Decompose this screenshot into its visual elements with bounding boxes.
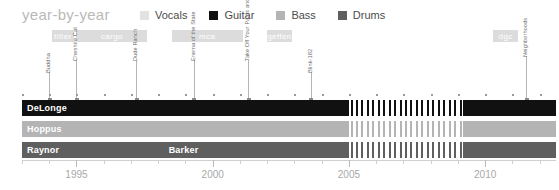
timeline-segment[interactable]: Raynor — [22, 142, 164, 158]
legend-item-vocals[interactable]: Vocals — [140, 9, 187, 21]
axis-minor-tick — [540, 160, 541, 164]
minor-tick — [403, 94, 405, 96]
album-title: Blink-182 — [307, 49, 313, 73]
album-title: Neighborhoods — [522, 18, 528, 57]
timeline-row-drummers: RaynorBarker — [0, 142, 559, 158]
chart-header: year-by-year VocalsGuitarBassDrums — [0, 0, 559, 28]
record-label-band-dgc[interactable]: dgc — [493, 30, 518, 42]
record-label-text: filter — [54, 32, 72, 41]
hatch-stripe — [394, 121, 396, 137]
timeline-segment[interactable] — [463, 100, 556, 116]
hatch-stripe — [361, 100, 363, 116]
hatch-stripe — [356, 100, 358, 116]
minor-tick — [213, 94, 215, 96]
hatch-stripe — [372, 142, 374, 158]
album-title: Cheshire Cat — [72, 27, 78, 61]
record-label-band-filter[interactable]: filter — [52, 30, 74, 42]
axis-minor-tick — [458, 160, 459, 164]
hatch-stripe — [438, 100, 440, 116]
hatch-stripe — [356, 121, 358, 137]
hatch-stripe — [454, 100, 456, 116]
minor-tick — [240, 94, 242, 96]
timeline-segment[interactable]: Hoppus — [22, 121, 349, 137]
timeline-segment[interactable] — [463, 142, 556, 158]
legend-label: Drums — [353, 9, 385, 21]
bass-swatch-icon — [276, 11, 285, 20]
hatch-stripe — [400, 121, 402, 137]
timeline-segment[interactable]: DeLonge — [22, 100, 349, 116]
hatch-stripe — [383, 100, 385, 116]
hatch-stripe — [443, 121, 445, 137]
timeline-segment[interactable] — [463, 121, 556, 137]
minor-tick — [49, 94, 51, 96]
axis-tick-label: 1995 — [65, 169, 87, 180]
hatch-stripe — [443, 100, 445, 116]
timeline-segment[interactable]: Barker — [164, 142, 349, 158]
hatch-stripe — [421, 100, 423, 116]
hatch-stripe — [389, 121, 391, 137]
timeline-row-hoppus: Hoppus — [0, 121, 559, 137]
hatch-stripe — [361, 121, 363, 137]
record-label-band-mca[interactable]: mca — [172, 30, 243, 42]
drums-swatch-icon — [338, 11, 347, 20]
record-label-band-geffen[interactable]: geffen — [267, 30, 292, 42]
hatch-stripe — [449, 100, 451, 116]
hatch-stripe — [449, 121, 451, 137]
minor-tick — [267, 94, 269, 96]
axis-minor-tick — [22, 160, 23, 164]
minor-tick — [158, 94, 160, 96]
member-name: Hoppus — [27, 124, 62, 134]
hiatus-hatch-region — [349, 121, 463, 137]
hatch-stripe — [454, 121, 456, 137]
hatch-stripe — [460, 121, 462, 137]
hatch-stripe — [394, 100, 396, 116]
hatch-stripe — [416, 121, 418, 137]
axis-tick-label: 2010 — [474, 169, 496, 180]
hatch-stripe — [438, 142, 440, 158]
axis-tick-label: 2000 — [202, 169, 224, 180]
hatch-stripe — [405, 142, 407, 158]
hatch-stripe — [432, 142, 434, 158]
axis-tick-label: 2005 — [338, 169, 360, 180]
minor-tick — [185, 94, 187, 96]
axis-major-tick — [76, 160, 77, 167]
minor-tick — [76, 94, 78, 96]
axis-minor-tick — [431, 160, 432, 164]
member-name: Raynor — [27, 145, 59, 155]
page-title: year-by-year — [22, 6, 110, 23]
hatch-stripe — [427, 100, 429, 116]
hatch-stripe — [405, 121, 407, 137]
album-title: Take Off Your Pants and Jacket — [244, 0, 250, 61]
hatch-stripe — [410, 100, 412, 116]
record-label-text: geffen — [267, 32, 292, 41]
hatch-stripe — [427, 142, 429, 158]
axis-major-tick — [485, 160, 486, 167]
hatch-stripe — [427, 121, 429, 137]
hatch-stripe — [356, 142, 358, 158]
legend-label: Bass — [291, 9, 315, 21]
hatch-stripe — [389, 142, 391, 158]
hatch-stripe — [372, 100, 374, 116]
minor-tick — [104, 94, 106, 96]
legend-item-bass[interactable]: Bass — [276, 9, 315, 21]
hatch-stripe — [378, 142, 380, 158]
vocals-swatch-icon — [140, 11, 149, 20]
hatch-stripe — [351, 142, 353, 158]
hatch-stripe — [421, 142, 423, 158]
axis-minor-tick — [104, 160, 105, 164]
hatch-stripe — [361, 142, 363, 158]
year-by-year-chart: year-by-year VocalsGuitarBassDrums filte… — [0, 0, 559, 190]
hatch-stripe — [438, 121, 440, 137]
hatch-stripe — [400, 142, 402, 158]
legend-item-drums[interactable]: Drums — [338, 9, 385, 21]
axis-minor-tick — [267, 160, 268, 164]
axis-minor-tick — [512, 160, 513, 164]
minor-tick — [431, 94, 433, 96]
hatch-stripe — [454, 142, 456, 158]
hatch-stripe — [449, 142, 451, 158]
minor-tick-row — [0, 94, 559, 99]
minor-tick — [540, 94, 542, 96]
minor-tick — [131, 94, 133, 96]
hatch-stripe — [460, 100, 462, 116]
member-name: DeLonge — [27, 103, 67, 113]
